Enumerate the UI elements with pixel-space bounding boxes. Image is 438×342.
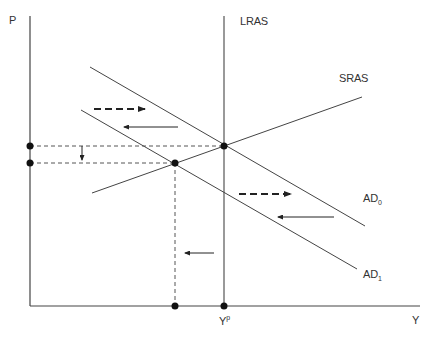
ad0-label-main: AD [363,192,378,204]
price-dot-upper [27,143,34,150]
sras-label: SRAS [339,72,368,84]
ad1-label-main: AD [363,268,378,280]
equilibrium-dot-new [172,160,179,167]
ad0-label-sub: 0 [378,199,382,206]
price-dot-lower [27,160,34,167]
potential-output-sup: p [226,314,230,321]
output-dot-potential [221,303,228,310]
ad0-label: AD0 [363,192,382,206]
ad1-label-sub: 1 [378,275,382,282]
output-axis-label: Y [412,314,419,326]
output-dot-new [172,303,179,310]
ad1-curve [81,110,357,269]
equilibrium-dot-initial [221,143,228,150]
ad-as-diagram [0,0,438,342]
price-axis-label: P [9,14,16,26]
ad1-label: AD1 [363,268,382,282]
lras-label: LRAS [240,15,268,27]
potential-output-label: Yp [219,314,230,327]
